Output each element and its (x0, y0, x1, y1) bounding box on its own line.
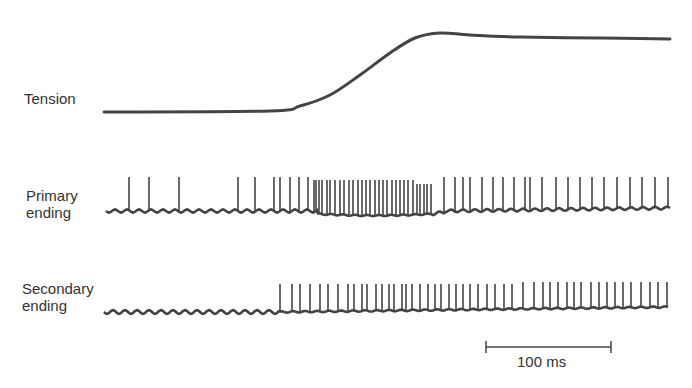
scale-bar (486, 341, 611, 353)
baseline (104, 306, 668, 313)
tension-trace (104, 33, 670, 112)
baseline (106, 207, 670, 216)
scale-bar-label: 100 ms (517, 353, 566, 370)
traces-plot (0, 0, 692, 388)
secondary-ending-trace (104, 282, 668, 314)
primary-ending-trace (106, 177, 670, 216)
